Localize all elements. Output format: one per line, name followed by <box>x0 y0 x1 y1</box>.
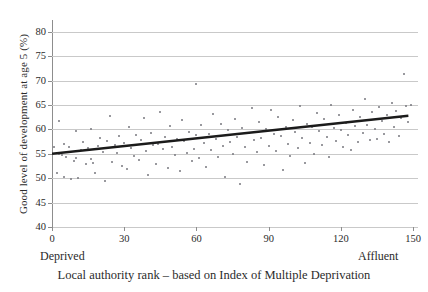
scatter-point <box>73 160 75 162</box>
scatter-point <box>135 134 137 136</box>
scatter-point <box>109 115 111 117</box>
scatter-point <box>58 120 60 122</box>
scatter-point <box>85 163 87 165</box>
scatter-point <box>179 170 181 172</box>
scatter-point <box>227 129 229 131</box>
scatter-point <box>268 145 270 147</box>
scatter-point <box>326 136 328 138</box>
scatter-point <box>383 133 385 135</box>
scatter-point <box>294 131 296 133</box>
scatter-point <box>388 141 390 143</box>
scatter-point <box>75 157 77 159</box>
scatter-point <box>352 109 354 111</box>
scatter-point <box>90 128 92 130</box>
x-axis-left-end-label: Deprived <box>40 249 85 264</box>
scatter-point <box>248 132 250 134</box>
scatter-point <box>111 161 113 163</box>
scatter-point <box>234 118 236 120</box>
scatter-point <box>133 155 135 157</box>
scatter-point <box>145 150 147 152</box>
scatter-point <box>159 111 161 113</box>
scatter-point <box>330 104 332 106</box>
scatter-point <box>335 140 337 142</box>
scatter-point <box>220 123 222 125</box>
scatter-point <box>174 154 176 156</box>
scatter-point <box>371 111 373 113</box>
scatter-point <box>376 138 378 140</box>
scatter-point <box>186 152 188 154</box>
scatter-point <box>217 156 219 158</box>
x-tick-mark <box>413 227 414 231</box>
scatter-point <box>350 149 352 151</box>
scatter-point <box>374 128 376 130</box>
scatter-point <box>393 126 395 128</box>
scatter-point <box>212 113 214 115</box>
scatter-point <box>104 180 106 182</box>
scatter-point <box>53 146 55 148</box>
scatter-point <box>82 141 84 143</box>
scatter-point <box>155 163 157 165</box>
scatter-point <box>222 145 224 147</box>
scatter-point <box>256 151 258 153</box>
scatter-point <box>198 157 200 159</box>
y-tick-label: 55 <box>26 149 46 160</box>
scatter-point <box>285 126 287 128</box>
x-tick-label: 30 <box>109 234 139 245</box>
scatter-point <box>289 155 291 157</box>
scatter-point <box>313 153 315 155</box>
y-tick-label: 75 <box>26 51 46 62</box>
scatter-point <box>58 153 60 155</box>
x-tick-label: 0 <box>37 234 67 245</box>
plot-area <box>52 27 418 227</box>
scatter-point <box>143 117 145 119</box>
x-axis-right-end-label: Affluent <box>358 249 398 264</box>
x-tick-mark <box>124 227 125 231</box>
scatter-point <box>210 149 212 151</box>
scatter-point <box>309 142 311 144</box>
scatter-point <box>277 116 279 118</box>
scatter-point <box>280 135 282 137</box>
scatter-point <box>63 143 65 145</box>
scatter-point <box>232 153 234 155</box>
gridline <box>52 227 418 228</box>
scatter-point <box>183 140 185 142</box>
y-tick-label: 40 <box>26 222 46 233</box>
scatter-point <box>208 133 210 135</box>
scatter-point <box>398 135 400 137</box>
scatter-point <box>171 146 173 148</box>
scatter-point <box>123 142 125 144</box>
scatter-point <box>369 139 371 141</box>
scatter-point <box>347 134 349 136</box>
x-tick-label: 60 <box>181 234 211 245</box>
x-axis-title: Local authority rank – based on Index of… <box>0 268 428 283</box>
scatter-point <box>299 105 301 107</box>
scatter-chart-figure: Good level of development at age 5 (%) 4… <box>0 0 428 292</box>
y-tick-label: 65 <box>26 100 46 111</box>
scatter-point <box>99 137 101 139</box>
y-tick-label: 50 <box>26 173 46 184</box>
scatter-point <box>130 147 132 149</box>
scatter-point <box>270 109 272 111</box>
scatter-point <box>263 164 265 166</box>
scatter-point <box>229 141 231 143</box>
scatter-point <box>306 123 308 125</box>
scatter-point <box>75 130 77 132</box>
scatter-point <box>403 73 405 75</box>
scatter-point <box>87 147 89 149</box>
scatter-point <box>92 162 94 164</box>
scatter-point <box>311 126 313 128</box>
scatter-point <box>147 174 149 176</box>
scatter-point <box>56 172 58 174</box>
scatter-point <box>169 125 171 127</box>
scatter-point <box>246 161 248 163</box>
scatter-point <box>273 133 275 135</box>
scatter-point <box>251 107 253 109</box>
scatter-point <box>362 132 364 134</box>
scatter-point <box>260 137 262 139</box>
scatter-point <box>297 147 299 149</box>
scatter-point <box>357 141 359 143</box>
y-tick-label: 45 <box>26 198 46 209</box>
scatter-point <box>287 143 289 145</box>
scatter-point <box>381 120 383 122</box>
scatter-point <box>188 131 190 133</box>
